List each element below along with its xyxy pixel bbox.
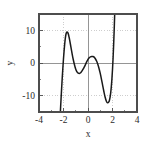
xtick-label-3: 2 (110, 115, 115, 125)
xtick-label-0: -4 (35, 115, 43, 125)
screenshot-root: -4 -2 0 2 4 10 0 -10 x y (0, 0, 149, 144)
ytick-label-10: 10 (26, 26, 36, 36)
xtick-label-1: -2 (60, 115, 68, 125)
ytick-label-0: 0 (30, 58, 35, 68)
ytick-label--10: -10 (22, 91, 35, 101)
y-axis-title: y (5, 60, 15, 65)
xtick-label-2: 0 (86, 115, 91, 125)
chart-svg: -4 -2 0 2 4 10 0 -10 x y (0, 0, 149, 144)
x-axis-title: x (86, 129, 91, 139)
xtick-label-4: 4 (135, 115, 140, 125)
chart-figure: -4 -2 0 2 4 10 0 -10 x y (0, 0, 149, 144)
